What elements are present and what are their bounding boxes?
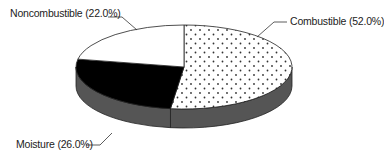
leader-line (257, 22, 287, 37)
label-noncombustible: Noncombustible (22.0%) (10, 7, 121, 19)
label-combustible: Combustible (52.0%) (290, 15, 384, 27)
label-moisture: Moisture (26.0%) (16, 138, 93, 150)
slice-noncombustible (78, 25, 184, 67)
pie-slices (76, 25, 292, 109)
